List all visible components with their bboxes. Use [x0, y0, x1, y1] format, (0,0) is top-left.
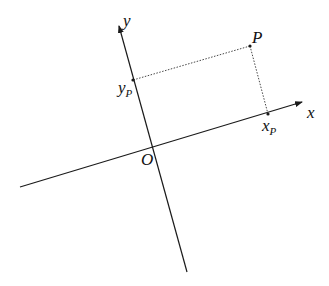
x-axis-line — [20, 102, 302, 187]
x-projection-label-sub: P — [269, 125, 277, 137]
x-projection-label: xP — [261, 116, 277, 137]
y-axis-label: y — [121, 11, 131, 30]
projection-line-to-y — [133, 46, 250, 80]
y-projection-label-sub: P — [125, 87, 133, 99]
y-projection-label: yP — [116, 78, 133, 99]
y-projection-label-main: y — [116, 78, 126, 97]
x-axis-label: x — [306, 103, 315, 122]
point-p-label: P — [251, 28, 262, 47]
y-projection-marker — [131, 78, 134, 81]
diagram-canvas: x y O P yP xP — [0, 0, 329, 286]
origin-label: O — [141, 150, 153, 169]
y-axis-line — [119, 26, 187, 272]
projection-line-to-x — [250, 46, 268, 114]
